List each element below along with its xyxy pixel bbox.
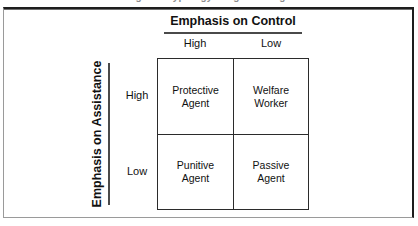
quadrant-label: Protective Agent <box>172 84 219 110</box>
column-tick-high: High <box>157 37 233 49</box>
quadrant-label: Passive Agent <box>253 159 290 185</box>
quadrant-cell-punitive-agent: Punitive Agent <box>158 134 233 209</box>
quadrant-label: Punitive Agent <box>177 159 214 185</box>
frame-top-rule <box>4 9 412 10</box>
column-axis-underline <box>164 32 302 34</box>
column-axis-title: Emphasis on Control <box>157 14 309 28</box>
quadrant-cell-passive-agent: Passive Agent <box>233 134 308 209</box>
row-tick-low: Low <box>118 165 156 177</box>
row-axis-title: Emphasis on Assistance <box>90 58 104 210</box>
row-tick-high: High <box>118 89 156 101</box>
row-axis-underline <box>108 63 110 205</box>
quadrant-matrix: Protective Agent Welfare Worker Punitive… <box>157 58 309 210</box>
quadrant-cell-protective-agent: Protective Agent <box>158 59 233 134</box>
quadrant-label: Welfare Worker <box>253 84 289 110</box>
column-tick-low: Low <box>233 37 309 49</box>
clipped-page-caption: igure ... ypology ... agent ... ing <box>0 0 418 5</box>
quadrant-cell-welfare-worker: Welfare Worker <box>233 59 308 134</box>
